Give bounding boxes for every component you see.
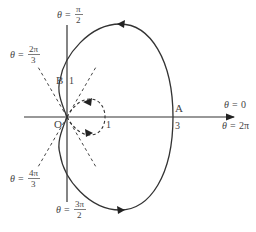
inner-loop-label: 1: [106, 119, 111, 130]
svg-text:3: 3: [31, 179, 36, 189]
svg-text:θ: θ: [56, 204, 61, 215]
svg-text:2: 2: [76, 15, 81, 25]
svg-text:π: π: [76, 4, 81, 14]
label-theta-2pi: θ = 2π: [222, 120, 249, 131]
label-theta-pi-over-2: θ = π 2: [57, 4, 83, 25]
svg-text:=: =: [64, 204, 70, 215]
svg-text:=: =: [230, 120, 236, 131]
label-theta-0: θ = 0: [224, 99, 246, 110]
svg-text:0: 0: [241, 99, 246, 110]
polar-diagram: O A 3 B 1 1 θ = 0 θ = 2π θ = π 2 θ = 2π …: [0, 0, 256, 232]
svg-text:3: 3: [31, 55, 36, 65]
svg-text:=: =: [18, 49, 24, 60]
point-a-label: A: [175, 102, 183, 114]
svg-text:θ: θ: [224, 99, 229, 110]
svg-text:=: =: [65, 9, 71, 20]
svg-text:θ: θ: [222, 120, 227, 131]
label-theta-2pi-over-3: θ = 2π 3: [10, 44, 40, 65]
svg-text:3π: 3π: [75, 199, 85, 209]
point-b-label: B: [56, 74, 63, 86]
svg-text:=: =: [232, 99, 238, 110]
svg-text:=: =: [18, 173, 24, 184]
svg-text:θ: θ: [10, 173, 15, 184]
svg-text:θ: θ: [10, 49, 15, 60]
label-theta-4pi-over-3: θ = 4π 3: [10, 168, 40, 189]
svg-text:θ: θ: [57, 9, 62, 20]
label-theta-3pi-over-2: θ = 3π 2: [56, 199, 86, 220]
svg-text:2π: 2π: [239, 120, 249, 131]
origin-label: O: [54, 118, 62, 130]
point-b-r-label: 1: [69, 75, 74, 86]
point-a-r-label: 3: [175, 120, 180, 131]
svg-text:4π: 4π: [29, 168, 39, 178]
svg-text:2: 2: [77, 210, 82, 220]
svg-text:2π: 2π: [29, 44, 39, 54]
